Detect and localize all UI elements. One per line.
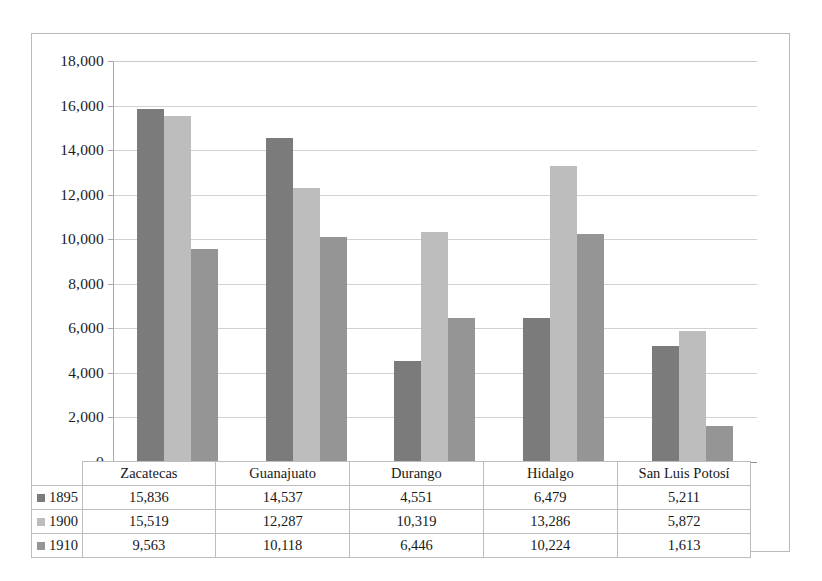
bar [293,188,320,462]
bar [137,109,164,462]
table-column-header: Durango [350,462,484,486]
bar-group [113,61,242,462]
bar-group [242,61,371,462]
table-cell: 4,551 [350,486,484,510]
table-corner-cell [32,462,83,486]
bars-layer [113,61,757,462]
y-axis-label: 16,000 [60,97,104,115]
y-axis-label: 4,000 [68,364,104,382]
bar-group [371,61,500,462]
table-cell: 15,519 [82,510,216,534]
table-cell: 10,224 [483,534,617,558]
bar [523,318,550,462]
y-axis-label: 8,000 [68,275,104,293]
y-axis-label: 10,000 [60,230,104,248]
table-cell: 9,563 [82,534,216,558]
table-row: 19109,56310,1186,44610,2241,613 [32,534,751,558]
y-axis-label: 18,000 [60,52,104,70]
table-cell: 5,211 [617,486,751,510]
bar [320,237,347,462]
bar [652,346,679,462]
bar [421,232,448,462]
table-cell: 13,286 [483,510,617,534]
table-cell: 6,446 [350,534,484,558]
table-row: 189515,83614,5374,5516,4795,211 [32,486,751,510]
table-row: 190015,51912,28710,31913,2865,872 [32,510,751,534]
table-column-header: Guanajuato [216,462,350,486]
y-axis-label: 6,000 [68,319,104,337]
table-series-label: 1910 [32,534,83,558]
bar [191,249,218,462]
legend-swatch-icon [37,494,45,502]
bar-group [499,61,628,462]
table-cell: 10,118 [216,534,350,558]
y-axis-label: 2,000 [68,408,104,426]
table-cell: 15,836 [82,486,216,510]
table-cell: 1,613 [617,534,751,558]
bar [448,318,475,462]
chart-data-table: ZacatecasGuanajuatoDurangoHidalgoSan Lui… [31,461,751,558]
bar [706,426,733,462]
table-header-row: ZacatecasGuanajuatoDurangoHidalgoSan Lui… [32,462,751,486]
legend-swatch-icon [37,518,45,526]
table-cell: 12,287 [216,510,350,534]
bar-group [628,61,757,462]
table-series-label: 1895 [32,486,83,510]
plot-area: 02,0004,0006,0008,00010,00012,00014,0001… [113,61,757,462]
bar [266,138,293,462]
table-column-header: Hidalgo [483,462,617,486]
table-cell: 14,537 [216,486,350,510]
bar [550,166,577,462]
figure: 02,0004,0006,0008,00010,00012,00014,0001… [0,0,822,581]
bar [394,361,421,462]
table-column-header: San Luis Potosí [617,462,751,486]
table-cell: 10,319 [350,510,484,534]
bar [577,234,604,462]
table-series-label: 1900 [32,510,83,534]
table-body: 189515,83614,5374,5516,4795,211190015,51… [32,486,751,558]
y-axis-label: 12,000 [60,186,104,204]
y-axis-label: 14,000 [60,141,104,159]
table-cell: 5,872 [617,510,751,534]
table-cell: 6,479 [483,486,617,510]
bar [679,331,706,462]
table-column-header: Zacatecas [82,462,216,486]
legend-swatch-icon [37,542,45,550]
bar [164,116,191,462]
